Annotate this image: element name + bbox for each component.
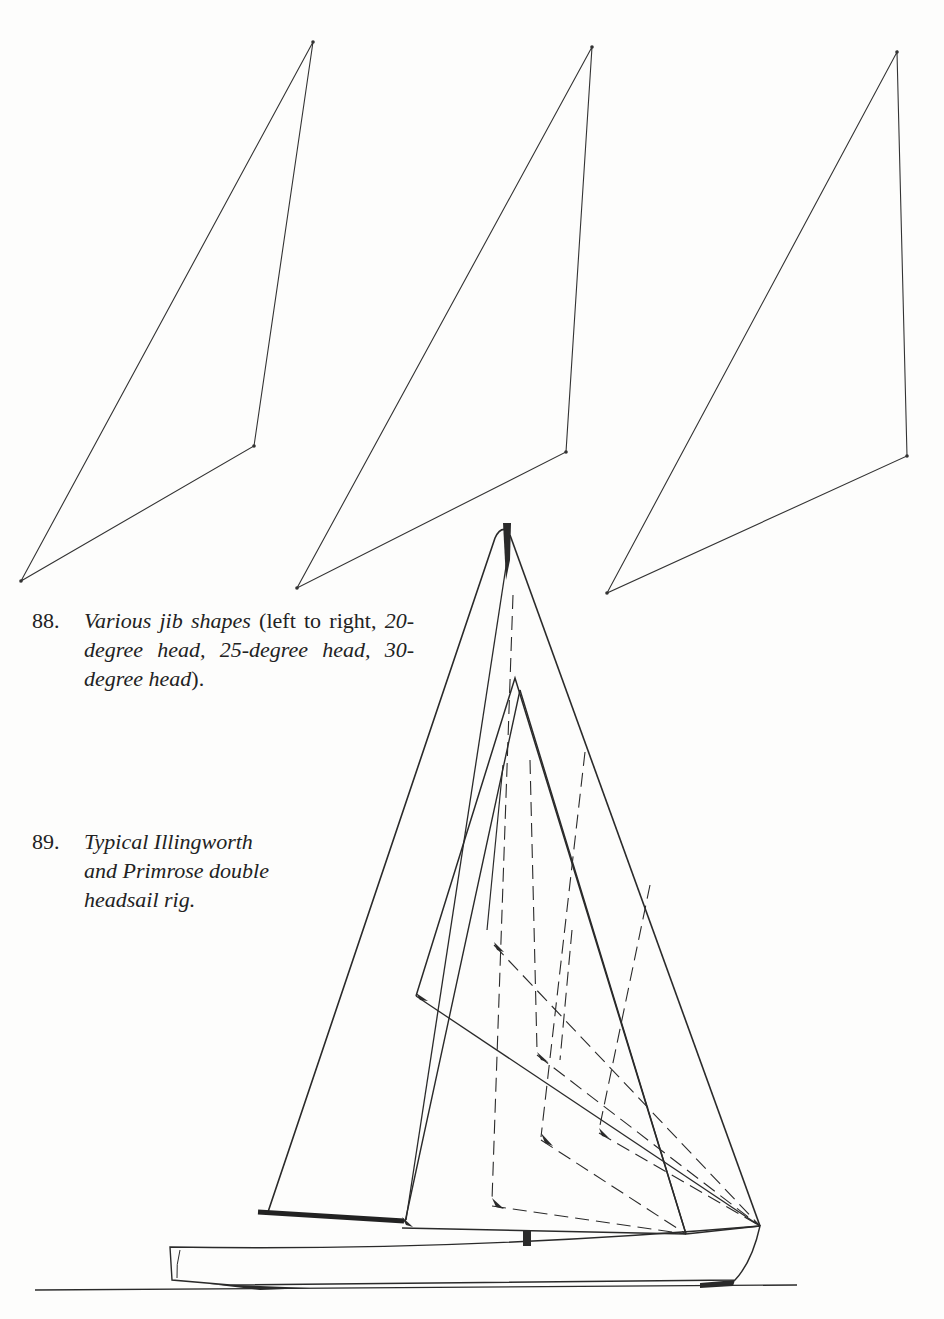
caption-figure-89: 89. Typical Illingworth and Primrose dou… [32, 827, 352, 917]
boom [258, 1212, 404, 1221]
jib-30-degree [607, 52, 907, 593]
forestay [510, 535, 760, 1226]
jib-corner-dots [19, 40, 909, 595]
figure-number-88: 88. [32, 606, 60, 635]
jib-20-degree [21, 42, 313, 581]
mast-step [523, 1231, 531, 1246]
jib-25-degree [297, 47, 592, 588]
clew-fittings [402, 942, 609, 1227]
caption-figure-88: 88. Various jib shapes (left to right, 2… [32, 606, 392, 726]
sheet-leads [492, 595, 760, 1234]
yankee-foot [416, 996, 760, 1226]
yankee [416, 678, 686, 1234]
book-page: 88. Various jib shapes (left to right, 2… [0, 0, 944, 1319]
jib-shapes [21, 42, 907, 593]
hull [170, 1226, 760, 1285]
figure-title-88: Various jib shapes [84, 608, 251, 633]
staysail [405, 690, 686, 1234]
masthead [503, 523, 511, 580]
waterline [35, 1285, 797, 1290]
caption-text-88: Various jib shapes (left to right, 20-de… [84, 606, 414, 693]
caption-text-89: Typical Illingworth and Primrose double … [84, 827, 364, 914]
mast-line [406, 560, 507, 1220]
figure-number-89: 89. [32, 827, 60, 856]
